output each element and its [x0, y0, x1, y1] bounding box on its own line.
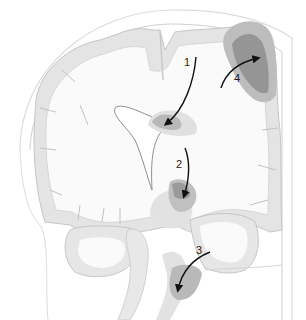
label-3: 3	[196, 244, 202, 256]
label-2: 2	[176, 158, 182, 170]
label-1: 1	[184, 56, 190, 68]
label-4: 4	[234, 72, 240, 84]
brain-diagram: 1 2 3 4	[0, 0, 306, 320]
